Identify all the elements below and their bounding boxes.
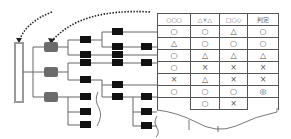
- table-row: ○ ○ ○ ◎: [158, 86, 279, 98]
- break-mark: [96, 92, 100, 126]
- table-row: ○ △ △ △: [158, 50, 279, 62]
- table-cell: ○: [220, 86, 248, 98]
- table-cell: △: [158, 38, 191, 50]
- table-row: ○ ○ △ ○: [158, 26, 279, 38]
- table-cell: ×: [220, 74, 248, 86]
- level1-node: [44, 92, 58, 102]
- level1-node: [44, 67, 58, 77]
- header-cell: 判定: [248, 14, 279, 26]
- table-row: × △ × ×: [158, 74, 279, 86]
- table-cell: ×: [248, 62, 279, 74]
- table-cell: ○: [191, 86, 220, 98]
- table-torn-edge: [156, 108, 278, 139]
- table-cell: ○: [158, 50, 191, 62]
- table-header-row: ○○○ △×△ □○◇ 判定: [158, 14, 279, 26]
- table-cell: ×: [248, 74, 279, 86]
- dotted-arrow-to-node: [52, 12, 150, 41]
- table-cell: ○: [248, 26, 279, 38]
- table-cell: △: [248, 50, 279, 62]
- table-cell: ○: [248, 38, 279, 50]
- table-cell: ×: [220, 62, 248, 74]
- header-cell: △×△: [191, 14, 220, 26]
- table-cell: ◎: [248, 86, 279, 98]
- root-bar: [15, 43, 23, 102]
- table-cell: ×: [191, 62, 220, 74]
- table-cell: ○: [220, 38, 248, 50]
- evaluation-table: ○○○ △×△ □○◇ 判定 ○ ○ △ ○ △ ○ ○ ○ ○ △ △ △ ○…: [157, 13, 279, 110]
- table-row: ○ × × ×: [158, 62, 279, 74]
- table-cell: △: [191, 50, 220, 62]
- table-cell: ○: [158, 62, 191, 74]
- table-cell: ○: [191, 26, 220, 38]
- table-row: △ ○ ○ ○: [158, 38, 279, 50]
- table-cell: ○: [191, 38, 220, 50]
- table-cell: ○: [158, 86, 191, 98]
- table-cell: △: [191, 74, 220, 86]
- table-cell: △: [220, 26, 248, 38]
- dotted-arrow-to-root: [19, 12, 52, 41]
- header-cell: □○◇: [220, 14, 248, 26]
- leaf-nodes: [80, 28, 152, 129]
- table-cell: △: [220, 50, 248, 62]
- table-cell: ×: [158, 74, 191, 86]
- header-cell: ○○○: [158, 14, 191, 26]
- level1-node: [44, 42, 58, 52]
- table-cell: ○: [158, 26, 191, 38]
